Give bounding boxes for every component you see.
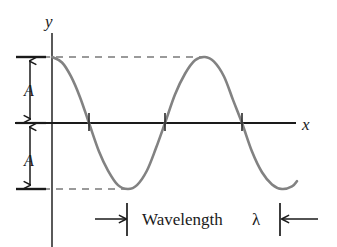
x-axis-label: x (301, 115, 310, 134)
lambda-symbol: λ (252, 210, 261, 229)
amplitude-lower-label: A (23, 152, 34, 169)
amplitude-upper-label: A (23, 82, 34, 99)
wave-diagram-canvas: y x A A Wavelength λ (0, 0, 337, 247)
wave-diagram-figure: y x A A Wavelength λ (0, 0, 337, 247)
wavelength-caption: Wavelength (142, 210, 223, 229)
y-axis-label: y (43, 12, 53, 31)
